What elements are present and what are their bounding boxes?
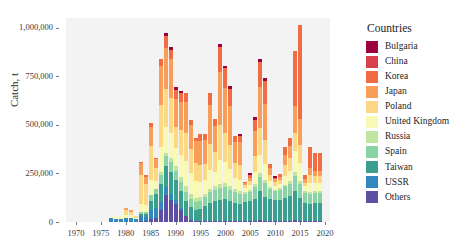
bar-segment [159, 147, 163, 172]
bar-segment [154, 208, 158, 218]
bar-segment [298, 119, 302, 144]
bar-stack [238, 134, 242, 222]
bar-segment [184, 133, 188, 161]
legend-item-russia[interactable]: Russia [366, 130, 469, 145]
bar-segment [218, 72, 222, 124]
x-tick-mark [250, 222, 251, 225]
bar-segment [164, 195, 168, 222]
bar-segment [203, 134, 207, 141]
bar-segment [198, 165, 202, 182]
legend-item-united-kingdom[interactable]: United Kingdom [366, 114, 469, 129]
legend-item-label: China [385, 57, 408, 67]
legend-swatch-icon [366, 146, 378, 158]
bar-segment [318, 193, 322, 202]
x-tick-mark [76, 222, 77, 225]
x-tick-mark [300, 222, 301, 225]
bar-segment [253, 120, 257, 131]
bar-segment [253, 172, 257, 184]
bar-segment [174, 127, 178, 148]
bar-stack [218, 44, 222, 222]
bar-segment [258, 87, 262, 129]
x-tick-label: 1985 [142, 228, 159, 238]
x-tick-label: 1975 [92, 228, 109, 238]
legend-item-korea[interactable]: Korea [366, 69, 469, 84]
x-axis-ticks: 1970197519801985199019952000200520102015… [66, 222, 330, 251]
bar-segment [238, 165, 242, 180]
bar-segment [169, 172, 173, 193]
bar-segment [263, 104, 267, 141]
bar-segment [154, 181, 158, 188]
y-tick-label: 1,000,000 [19, 23, 53, 32]
x-tick-mark [225, 222, 226, 225]
x-tick-mark [200, 222, 201, 225]
bar-segment [198, 141, 202, 164]
y-tick-label: 0 [49, 218, 53, 227]
legend: Countries BulgariaChinaKoreaJapanPolandU… [366, 22, 469, 205]
bar-segment [288, 146, 292, 158]
legend-item-others[interactable]: Others [366, 190, 469, 205]
bar-segment [233, 163, 237, 178]
bar-segment [164, 89, 168, 127]
bar-segment [258, 128, 262, 154]
y-tick-mark [56, 76, 59, 77]
bar-segment [208, 93, 212, 105]
legend-item-label: Others [385, 193, 410, 203]
legend-swatch-icon [366, 86, 378, 98]
bar-stack [303, 175, 307, 222]
bar-segment [308, 175, 312, 183]
legend-item-china[interactable]: China [366, 54, 469, 69]
bar-segment [233, 192, 237, 203]
bar-segment [298, 184, 302, 198]
legend-title: Countries [367, 22, 469, 34]
bar-segment [278, 190, 282, 200]
y-tick-mark [56, 173, 59, 174]
bar-segment [208, 192, 212, 203]
legend-item-ussr[interactable]: USSR [366, 175, 469, 190]
bar-segment [154, 168, 158, 182]
bar-segment [203, 180, 207, 194]
bar-stack [198, 134, 202, 222]
bar-stack [288, 138, 292, 222]
bar-segment [278, 200, 282, 221]
bar-segment [203, 197, 207, 206]
bar-segment [164, 156, 168, 166]
legend-item-taiwan[interactable]: Taiwan [366, 160, 469, 175]
legend-item-bulgaria[interactable]: Bulgaria [366, 39, 469, 54]
bar-stack [268, 164, 272, 222]
bar-segment [308, 168, 312, 175]
bar-segment [223, 133, 227, 162]
bar-segment [218, 47, 222, 72]
bar-segment [194, 210, 198, 221]
bar-segment [283, 176, 287, 185]
bar-stack [169, 47, 173, 222]
bar-segment [198, 209, 202, 221]
bar-segment [233, 178, 237, 190]
y-axis-ticks: 0250,000500,000750,0001,000,000 [0, 0, 62, 251]
legend-item-spain[interactable]: Spain [366, 145, 469, 160]
bar-segment [253, 131, 257, 156]
bar-segment [208, 203, 212, 220]
legend-items: BulgariaChinaKoreaJapanPolandUnited King… [366, 39, 469, 205]
x-tick-label: 2015 [292, 228, 309, 238]
bar-stack [308, 147, 312, 222]
bar-stack [228, 86, 232, 222]
bar-stack [278, 174, 282, 222]
bar-segment [159, 105, 163, 147]
bar-segment [283, 165, 287, 176]
legend-item-poland[interactable]: Poland [366, 99, 469, 114]
bar-segment [268, 168, 272, 175]
bar-segment [198, 182, 202, 197]
bar-segment [144, 205, 148, 212]
bar-segment [228, 201, 232, 220]
bar-segment [218, 125, 222, 160]
bar-segment [238, 204, 242, 221]
bar-segment [179, 130, 183, 155]
bar-segment [228, 106, 232, 145]
bar-segment [189, 149, 193, 172]
bar-stack [318, 153, 322, 222]
bar-segment [174, 99, 178, 127]
bar-segment [288, 196, 292, 221]
bar-segment [179, 191, 183, 208]
bar-stack [159, 59, 163, 222]
legend-item-japan[interactable]: Japan [366, 84, 469, 99]
